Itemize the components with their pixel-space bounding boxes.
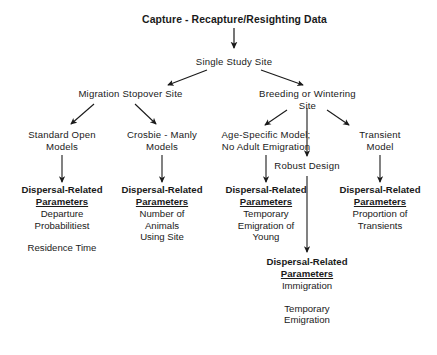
parameter-items: Immigration bbox=[251, 280, 363, 292]
parameter-extra-items: Residence Time bbox=[6, 242, 118, 254]
parameter-block-heading: Dispersal-Related Parameters bbox=[106, 184, 218, 208]
parameter-items: Proportion of Transients bbox=[324, 208, 436, 231]
parameter-heading-line2: Parameters bbox=[281, 268, 333, 279]
node-crosbie-manly-models: Crosbie - Manly Models bbox=[118, 129, 206, 152]
edge-breeding-to-age-specific bbox=[265, 110, 287, 125]
parameter-block-transient-model: Dispersal-Related Parameters Proportion … bbox=[324, 184, 436, 242]
parameter-heading-line1: Dispersal-Related bbox=[339, 184, 420, 195]
parameter-heading-line2: Parameters bbox=[354, 196, 406, 207]
node-age-specific-model: Age-Specific Model; No Adult Emigration bbox=[206, 129, 326, 152]
parameter-block-age-specific: Dispersal-Related Parameters Temporary E… bbox=[210, 184, 322, 254]
flowchart-connectors bbox=[0, 0, 437, 355]
parameter-heading-line1: Dispersal-Related bbox=[266, 256, 347, 267]
parameter-items: Departure Probabilitiest bbox=[6, 208, 118, 231]
node-breeding-or-wintering-site: Breeding or Wintering Site bbox=[248, 88, 367, 111]
parameter-heading-line1: Dispersal-Related bbox=[121, 184, 202, 195]
parameter-heading-line1: Dispersal-Related bbox=[21, 184, 102, 195]
node-single-study-site: Single Study Site bbox=[174, 56, 294, 68]
parameter-heading-line2: Parameters bbox=[36, 196, 88, 207]
parameter-items: Temporary Emigration of Young bbox=[210, 208, 322, 243]
parameter-block-standard-open-models: Dispersal-Related Parameters Departure P… bbox=[6, 184, 118, 254]
parameter-block-crosbie-manly: Dispersal-Related Parameters Number of A… bbox=[106, 184, 218, 254]
parameter-block-robust-design: Dispersal-Related Parameters Immigration… bbox=[251, 256, 363, 326]
edge-breeding-to-transient bbox=[327, 110, 349, 125]
node-standard-open-models: Standard Open Models bbox=[17, 129, 107, 152]
parameter-heading-line2: Parameters bbox=[136, 196, 188, 207]
edge-migration-to-crosbie bbox=[135, 104, 156, 124]
edge-study-site-to-migration bbox=[168, 70, 207, 85]
flowchart-diagram: Capture - Recapture/Resighting Data Sing… bbox=[0, 0, 437, 355]
edge-study-site-to-breeding bbox=[261, 70, 303, 85]
parameter-heading-line1: Dispersal-Related bbox=[225, 184, 306, 195]
parameter-items: Number of Animals Using Site bbox=[106, 208, 218, 243]
parameter-heading-line2: Parameters bbox=[240, 196, 292, 207]
parameter-block-heading: Dispersal-Related Parameters bbox=[324, 184, 436, 208]
parameter-block-heading: Dispersal-Related Parameters bbox=[251, 256, 363, 280]
node-migration-stopover-site: Migration Stopover Site bbox=[49, 88, 212, 100]
node-transient-model: Transient Model bbox=[345, 129, 415, 152]
node-robust-design: Robust Design bbox=[262, 160, 352, 172]
parameter-block-heading: Dispersal-Related Parameters bbox=[210, 184, 322, 208]
node-root: Capture - Recapture/Resighting Data bbox=[112, 14, 357, 26]
edge-migration-to-standard-open bbox=[71, 104, 94, 124]
parameter-block-heading: Dispersal-Related Parameters bbox=[6, 184, 118, 208]
parameter-extra-items: Temporary Emigration bbox=[251, 303, 363, 326]
